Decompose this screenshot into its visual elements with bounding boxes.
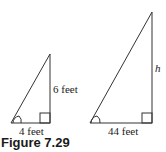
angle-arc (91, 116, 100, 123)
large-height-label: h (155, 62, 161, 74)
figure-caption: Figure 7.29 (1, 135, 70, 150)
large-base-label: 44 feet (108, 125, 138, 137)
large-triangle (90, 12, 152, 123)
figure-diagram: 6 feet 4 feet h 44 feet (0, 0, 166, 152)
right-angle-marker (142, 113, 152, 123)
right-angle-marker (40, 113, 50, 123)
small-triangle (11, 54, 50, 123)
small-height-label: 6 feet (53, 83, 78, 95)
